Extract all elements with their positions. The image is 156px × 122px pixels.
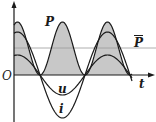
- t-axis-label: t: [139, 77, 145, 91]
- average-power-label: P: [133, 36, 144, 50]
- y-axis-arrow-icon: [12, 1, 17, 8]
- origin-label: O: [2, 69, 12, 83]
- power-area: [14, 22, 132, 75]
- current-label: i: [59, 102, 64, 116]
- t-axis-arrow-icon: [148, 73, 155, 78]
- voltage-label: u: [58, 82, 67, 96]
- power-diagram: O t P P u i: [0, 0, 156, 122]
- power-label: P: [44, 15, 55, 29]
